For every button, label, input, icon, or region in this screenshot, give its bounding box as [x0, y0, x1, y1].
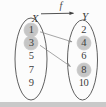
set-y-label: Y [82, 10, 88, 21]
mapping-arrow-3-to-8 [40, 45, 71, 66]
bottom-crop-strip [0, 102, 106, 107]
codomain-element-10: 10 [79, 78, 89, 89]
codomain-element-8: 8 [81, 64, 86, 75]
diagram-lines-layer [0, 0, 106, 102]
function-mapping-figure: X Y f 1 3 5 7 9 2 4 6 8 10 [0, 0, 106, 107]
codomain-element-4: 4 [81, 38, 86, 49]
set-x-label: X [32, 12, 39, 23]
domain-element-1: 1 [29, 24, 34, 35]
domain-element-5: 5 [29, 51, 34, 62]
codomain-element-6: 6 [81, 51, 86, 62]
domain-element-9: 9 [29, 78, 34, 89]
domain-element-7: 7 [29, 64, 34, 75]
codomain-element-2: 2 [81, 24, 86, 35]
domain-element-3: 3 [29, 38, 34, 49]
function-arrow [41, 13, 74, 14]
function-label: f [60, 1, 63, 11]
